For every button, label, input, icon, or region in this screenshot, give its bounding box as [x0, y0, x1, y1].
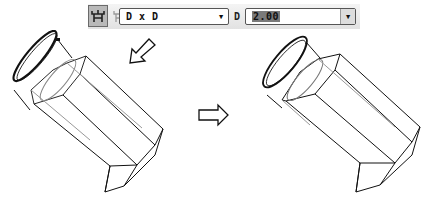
model-after	[240, 30, 427, 203]
model-before	[0, 30, 200, 203]
d-label: D	[234, 11, 240, 22]
chamfer-type-value: D x D	[126, 11, 159, 22]
both-edges-button[interactable]	[88, 5, 108, 27]
chamfer-toolbar: D x D ▼ D 2.00 ▼	[88, 4, 360, 29]
d-value-input[interactable]: 2.00 ▼	[245, 8, 356, 25]
chevron-down-icon[interactable]: ▼	[340, 9, 355, 24]
arrow-right-icon	[196, 103, 232, 127]
d-value: 2.00	[252, 11, 280, 22]
arrow-down-left-icon	[125, 38, 165, 68]
chevron-down-icon[interactable]: ▼	[214, 9, 228, 24]
chamfer-type-select[interactable]: D x D ▼	[119, 8, 229, 25]
fork-both-icon	[90, 8, 106, 24]
